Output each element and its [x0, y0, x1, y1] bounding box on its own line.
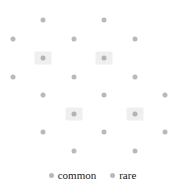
lattice-point-common — [96, 126, 113, 139]
point-marker-icon — [102, 18, 107, 23]
point-marker-icon — [72, 149, 77, 154]
legend-marker-rare-icon — [110, 173, 115, 178]
lattice-point-rare — [96, 52, 113, 65]
legend-label-rare: rare — [119, 170, 136, 181]
point-marker-icon — [133, 112, 138, 117]
lattice-point-common — [5, 33, 22, 46]
point-marker-icon — [133, 75, 138, 80]
point-marker-icon — [133, 37, 138, 42]
point-marker-icon — [102, 130, 107, 135]
point-marker-icon — [102, 56, 107, 61]
point-marker-icon — [11, 75, 16, 80]
lattice-point-common — [127, 33, 144, 46]
lattice-point-common — [66, 145, 83, 158]
lattice-point-common — [35, 126, 52, 139]
point-marker-icon — [102, 93, 107, 98]
legend-marker-common-icon — [49, 173, 54, 178]
point-marker-icon — [163, 93, 168, 98]
legend-item-common: common — [49, 170, 97, 181]
legend-item-rare: rare — [110, 170, 136, 181]
plot-area — [0, 0, 185, 162]
lattice-point-common — [35, 14, 52, 27]
point-marker-icon — [163, 130, 168, 135]
point-marker-icon — [72, 75, 77, 80]
point-marker-icon — [41, 130, 46, 135]
lattice-point-rare — [66, 108, 83, 121]
lattice-point-common — [96, 89, 113, 102]
lattice-point-common — [127, 71, 144, 84]
point-marker-icon — [11, 37, 16, 42]
legend-label-common: common — [58, 170, 97, 181]
lattice-scatter-figure: common rare — [0, 0, 185, 185]
point-marker-icon — [133, 149, 138, 154]
lattice-point-common — [5, 71, 22, 84]
lattice-point-rare — [35, 52, 52, 65]
lattice-point-common — [127, 145, 144, 158]
lattice-point-common — [66, 33, 83, 46]
chart-legend: common rare — [0, 170, 185, 181]
point-marker-icon — [41, 56, 46, 61]
point-marker-icon — [41, 93, 46, 98]
lattice-point-rare — [127, 108, 144, 121]
lattice-point-common — [157, 126, 174, 139]
lattice-point-common — [157, 89, 174, 102]
point-marker-icon — [41, 18, 46, 23]
point-marker-icon — [72, 112, 77, 117]
lattice-point-common — [66, 71, 83, 84]
lattice-point-common — [35, 89, 52, 102]
lattice-point-common — [96, 14, 113, 27]
point-marker-icon — [72, 37, 77, 42]
